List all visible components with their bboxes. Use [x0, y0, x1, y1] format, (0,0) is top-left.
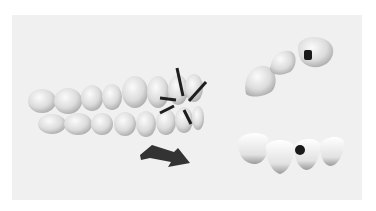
marker-lower — [295, 145, 305, 155]
dental-illustration — [0, 0, 376, 211]
lower-tooth-segment — [238, 133, 344, 174]
direction-arrow-icon — [140, 145, 190, 167]
upper-arch — [28, 74, 203, 114]
upper-tooth-segment — [245, 37, 333, 96]
marker-upper — [304, 50, 312, 60]
